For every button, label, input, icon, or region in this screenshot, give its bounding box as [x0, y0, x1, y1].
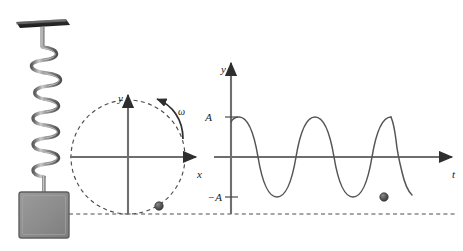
angular-velocity-label: ω [178, 106, 185, 117]
rotating-particle-dot [155, 202, 163, 210]
lower-connecting-rod [42, 176, 46, 193]
spring-mass-system [16, 19, 455, 238]
oscillating-particle-dot [380, 193, 388, 201]
negative-amplitude-label: −A [208, 191, 222, 203]
graph-t-axis-label: t [452, 168, 456, 180]
figure-canvas: y x ω y t A −A [0, 0, 463, 251]
graph-y-axis-label: y [220, 63, 226, 75]
circle-x-axis-label: x [196, 168, 202, 180]
displacement-vs-time-graph [214, 63, 452, 214]
ceiling-support-bar [16, 19, 70, 28]
mass-block [19, 192, 69, 238]
spring-coil-highlights [43, 48, 59, 164]
counterclockwise-rotation-arrow [157, 99, 183, 139]
physics-figure: y x ω y t A −A [0, 0, 463, 251]
positive-amplitude-label: A [204, 111, 212, 123]
helical-spring [31, 47, 60, 177]
circle-y-axis-label: y [117, 92, 123, 104]
upper-connecting-rod [41, 27, 45, 47]
